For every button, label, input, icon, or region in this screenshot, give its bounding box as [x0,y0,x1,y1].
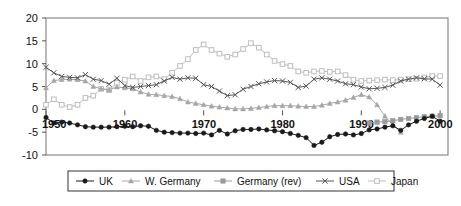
data-point [60,120,64,124]
data-point [249,127,253,131]
data-point [438,114,442,118]
legend-label: USA [339,176,360,187]
data-point [83,96,88,101]
data-point [67,121,71,125]
data-point [257,127,261,131]
data-point [375,120,379,124]
data-point [106,82,111,87]
data-point [59,102,64,107]
data-point [430,114,434,118]
data-point [115,124,119,128]
data-point [438,83,443,88]
data-point [390,83,395,88]
y-tick-label: -10 [22,149,38,161]
data-point [391,119,395,123]
data-point [99,125,103,129]
data-point [351,133,355,137]
data-point [375,78,380,83]
data-point [406,116,410,120]
data-point [375,127,379,131]
data-point [367,78,372,83]
data-point [359,79,364,84]
data-point [248,84,253,89]
data-point [130,74,135,79]
data-point [327,70,332,75]
data-point [422,116,426,120]
legend-label: Germany (rev) [237,176,301,187]
data-point [52,97,57,102]
data-point [209,48,214,53]
data-point [44,102,49,107]
data-point [320,69,325,74]
y-tick-label: 15 [26,35,38,47]
data-point [201,42,206,47]
data-point [170,71,175,76]
y-tick-label: 20 [26,12,38,24]
data-point [52,121,56,125]
data-point [154,128,158,132]
chart-container: 20151050-5-10195019601970198019902000UKW… [0,0,461,206]
y-tick-label: 5 [32,81,38,93]
data-point [335,132,339,136]
data-point [146,75,151,80]
data-point [162,130,166,134]
data-point [241,47,246,52]
data-point [217,128,221,132]
data-point [367,121,371,125]
data-point [201,131,205,135]
data-point [233,129,237,133]
x-tick-label: 1980 [270,118,294,130]
y-tick-label: -5 [28,126,38,138]
line-chart: 20151050-5-10195019601970198019902000UKW… [0,0,461,206]
data-point [194,131,198,135]
data-point [178,131,182,135]
data-point [221,179,225,183]
series-japan [44,41,443,110]
data-point [272,129,276,133]
data-point [217,88,222,93]
data-point [257,45,262,50]
data-point [146,124,150,128]
data-point [438,74,443,79]
data-point [383,119,387,123]
data-point [296,69,301,74]
series-line [46,43,440,107]
data-point [288,131,292,135]
data-point [438,119,442,123]
data-point [91,84,96,89]
data-point [406,123,410,127]
data-point [343,73,348,78]
data-point [359,131,363,135]
data-point [193,48,198,53]
data-point [391,124,395,128]
data-point [75,102,80,107]
data-point [399,128,403,132]
data-point [75,123,79,127]
data-point [138,124,142,128]
series-line [46,67,440,95]
data-point [383,77,388,82]
data-point [123,124,127,128]
data-point [91,93,96,98]
data-point [217,51,222,56]
data-point [170,130,174,134]
data-point [44,115,48,119]
data-point [296,133,300,137]
data-point [272,59,277,64]
data-point [280,130,284,134]
y-tick-label: 10 [26,58,38,70]
data-point [186,131,190,135]
data-point [138,79,143,84]
data-point [383,125,387,129]
data-point [131,124,135,128]
data-point [83,179,87,183]
data-point [304,135,308,139]
data-point [91,125,95,129]
data-point [264,52,269,57]
series-uk [44,114,443,148]
data-point [343,132,347,136]
data-point [123,77,128,82]
data-point [186,57,191,62]
data-point [83,72,88,77]
y-axis: 20151050-5-10 [22,12,46,161]
